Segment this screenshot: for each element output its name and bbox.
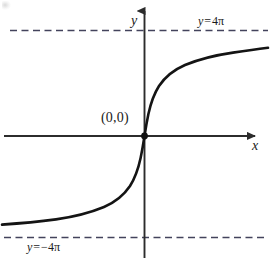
lower-asymptote-label: y=−4π xyxy=(27,241,60,253)
lower-asymptote-value: −4π xyxy=(41,240,60,254)
origin-coordinate-label: (0,0) xyxy=(101,111,129,125)
x-axis-label: x xyxy=(252,139,258,153)
upper-asymptote-label: y=4π xyxy=(198,15,224,27)
upper-asymptote-value: 4π xyxy=(212,14,224,28)
origin-point-marker xyxy=(141,133,148,140)
y-axis-label: y xyxy=(131,14,137,28)
lower-asymptote-equals: = xyxy=(32,240,41,254)
graph-canvas xyxy=(0,0,270,263)
upper-asymptote-equals: = xyxy=(203,14,212,28)
function-graph-figure: y x (0,0) y=4π y=−4π xyxy=(0,0,270,263)
